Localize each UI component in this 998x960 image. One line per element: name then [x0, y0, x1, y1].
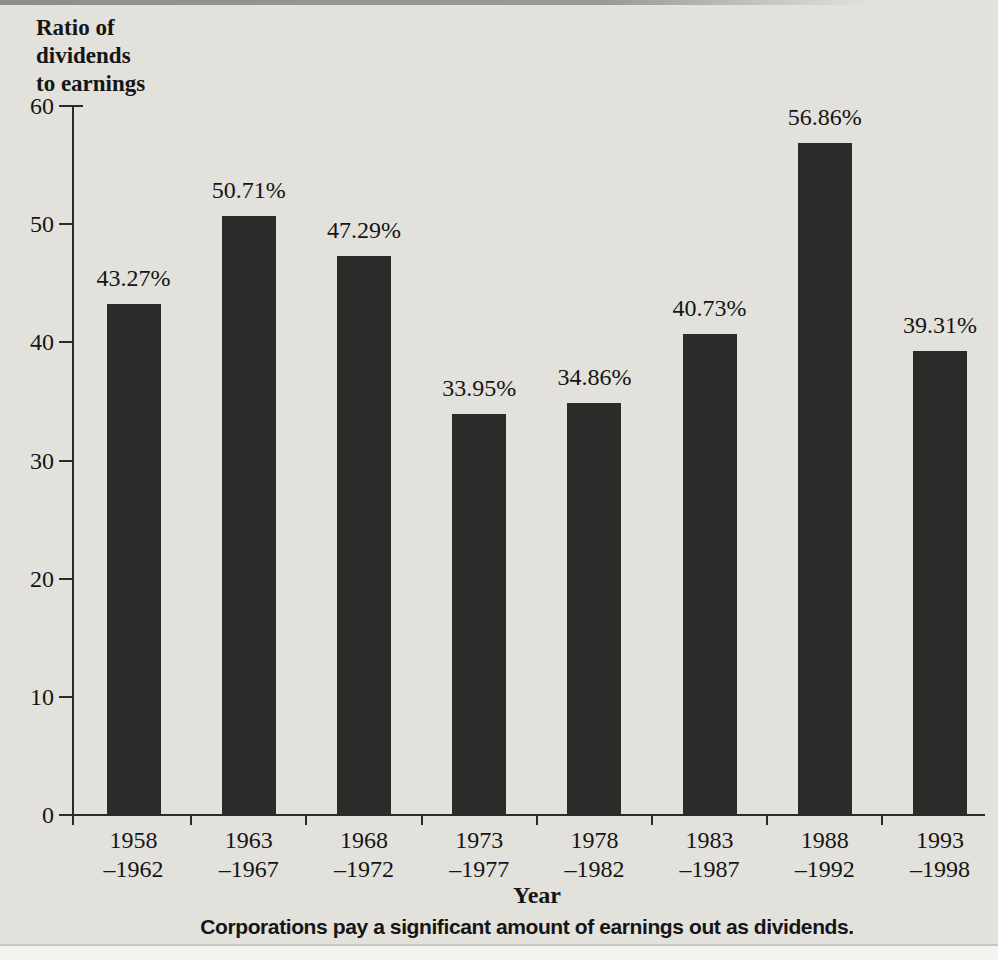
x-category-label-line1: 1958: [76, 826, 191, 855]
x-tick: [881, 815, 883, 825]
figure-caption: Corporations pay a significant amount of…: [49, 915, 998, 939]
bar: [567, 403, 621, 815]
y-axis-line: [72, 106, 74, 825]
x-tick: [536, 815, 538, 825]
y-tick: [59, 460, 73, 462]
x-category-label: 1983–1987: [652, 826, 767, 884]
x-category-label-line1: 1988: [767, 826, 882, 855]
x-category-label: 1973–1977: [422, 826, 537, 884]
bar-value-label: 56.86%: [755, 103, 895, 131]
x-category-label: 1963–1967: [191, 826, 306, 884]
y-tick-label: 30: [4, 449, 54, 473]
x-category-label: 1993–1998: [882, 826, 997, 884]
x-tick: [766, 815, 768, 825]
bar: [913, 351, 967, 816]
x-category-label-line1: 1963: [191, 826, 306, 855]
y-tick-label: 10: [4, 685, 54, 709]
y-tick-label: 20: [4, 567, 54, 591]
x-tick: [421, 815, 423, 825]
x-category-label-line1: 1968: [306, 826, 421, 855]
y-tick: [59, 341, 73, 343]
x-category-label: 1968–1972: [306, 826, 421, 884]
y-tick: [59, 105, 73, 107]
x-category-label: 1978–1982: [537, 826, 652, 884]
x-category-label-line2: –1992: [767, 855, 882, 884]
x-category-label: 1958–1962: [76, 826, 191, 884]
y-tick: [59, 696, 73, 698]
bar-value-label: 50.71%: [179, 176, 319, 204]
bar-value-label: 34.86%: [524, 363, 664, 391]
y-tick: [59, 814, 73, 816]
bar-value-label: 47.29%: [294, 216, 434, 244]
x-category-label-line2: –1998: [882, 855, 997, 884]
bar: [107, 304, 161, 815]
y-tick-label: 40: [4, 330, 54, 354]
x-category-label-line1: 1973: [422, 826, 537, 855]
x-category-label-line2: –1972: [306, 855, 421, 884]
y-tick: [59, 223, 73, 225]
x-category-label-line2: –1962: [76, 855, 191, 884]
bar: [337, 256, 391, 815]
bar-value-label: 43.27%: [64, 264, 204, 292]
x-category-label-line2: –1977: [422, 855, 537, 884]
x-tick: [305, 815, 307, 825]
bar-value-label: 39.31%: [870, 311, 998, 339]
x-category-label-line1: 1993: [882, 826, 997, 855]
x-tick: [190, 815, 192, 825]
bar-chart-plot: 010203040506043.27%1958–196250.71%1963–1…: [0, 0, 998, 946]
y-tick-label: 0: [4, 803, 54, 827]
y-tick-label: 60: [4, 94, 54, 118]
x-category-label: 1988–1992: [767, 826, 882, 884]
x-category-label-line2: –1967: [191, 855, 306, 884]
x-category-label-line1: 1983: [652, 826, 767, 855]
bar-value-label: 40.73%: [640, 294, 780, 322]
bar: [798, 143, 852, 815]
bar: [222, 216, 276, 815]
x-category-label-line1: 1978: [537, 826, 652, 855]
y-tick: [59, 578, 73, 580]
bar: [683, 334, 737, 815]
bar: [452, 414, 506, 815]
x-tick: [651, 815, 653, 825]
x-axis-label: Year: [437, 882, 637, 909]
page-scan-edge-bottom: [0, 944, 998, 946]
y-tick-label: 50: [4, 212, 54, 236]
x-category-label-line2: –1987: [652, 855, 767, 884]
dividend-ratio-figure: Ratio of dividends to earnings 010203040…: [0, 0, 998, 946]
x-category-label-line2: –1982: [537, 855, 652, 884]
y-axis-top-nub: [73, 105, 83, 107]
